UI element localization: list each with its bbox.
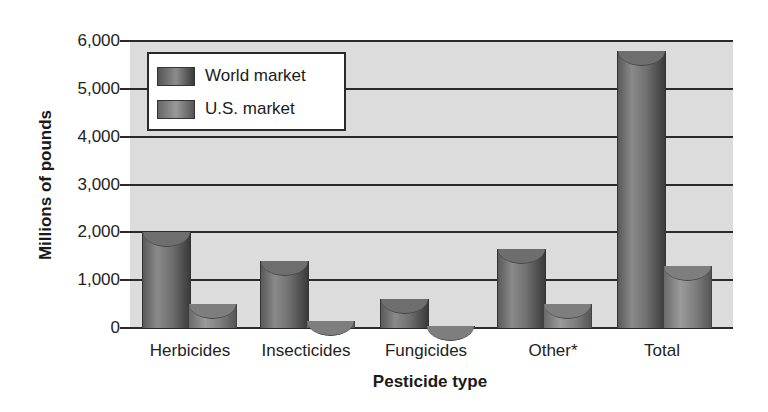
legend-label-world: World market [205, 66, 306, 86]
bar-world-total [617, 51, 666, 328]
bar-us-insecticides [307, 321, 355, 328]
gridline [130, 40, 733, 42]
y-tick [120, 231, 130, 233]
y-tick-label: 6,000 [77, 32, 120, 49]
y-tick-label: 0 [111, 319, 120, 336]
x-tick-label: Insecticides [262, 341, 351, 361]
bar-cap [618, 51, 665, 66]
x-tick-label: Fungicides [385, 341, 467, 361]
legend: World market U.S. market [147, 52, 346, 131]
y-tick [120, 279, 130, 281]
y-axis-label: Millions of pounds [36, 110, 56, 260]
x-tick-label: Herbicides [150, 341, 230, 361]
bar-world-other [497, 249, 546, 328]
bar-cap [427, 326, 474, 341]
legend-swatch-world [157, 67, 195, 86]
x-axis-label: Pesticide type [373, 372, 487, 392]
y-tick-label: 3,000 [77, 176, 120, 193]
y-tick-label: 5,000 [77, 80, 120, 97]
y-tick-label: 2,000 [77, 223, 120, 240]
y-tick-label: 4,000 [77, 128, 120, 145]
bar-us-fungicides [427, 326, 475, 328]
legend-label-us: U.S. market [205, 99, 295, 119]
legend-swatch-us [157, 100, 195, 119]
bar-cap [544, 304, 591, 319]
y-tick [120, 327, 130, 329]
bar-world-fungicides [380, 299, 429, 328]
bar-cap [664, 266, 711, 281]
bar-cap [261, 261, 308, 276]
y-tick-label: 1,000 [77, 271, 120, 288]
bar-cap [143, 232, 190, 247]
bar-world-herbicides [142, 232, 191, 328]
x-tick-label: Total [644, 341, 680, 361]
x-tick-label: Other* [528, 341, 577, 361]
bar-cap [307, 321, 354, 336]
y-tick [120, 88, 130, 90]
bar-us-herbicides [189, 304, 237, 328]
bar-cap [189, 304, 236, 319]
y-tick [120, 40, 130, 42]
bar-world-insecticides [260, 261, 309, 328]
bar-us-other [544, 304, 592, 328]
bar-cap [381, 299, 428, 314]
y-tick [120, 136, 130, 138]
bar-cap [498, 249, 545, 264]
y-tick [120, 184, 130, 186]
bar-us-total [664, 266, 712, 328]
